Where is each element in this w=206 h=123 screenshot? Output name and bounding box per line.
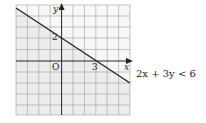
origin-label: O: [52, 62, 59, 72]
inequality-label: 2x + 3y < 6: [136, 68, 196, 79]
x-axis-label: x: [124, 62, 129, 72]
inequality-graph: y x O 2 3 2x + 3y < 6: [0, 0, 206, 123]
y-intercept-label: 2: [52, 32, 58, 42]
x-intercept-label: 3: [92, 62, 98, 72]
y-axis-label: y: [52, 4, 59, 14]
